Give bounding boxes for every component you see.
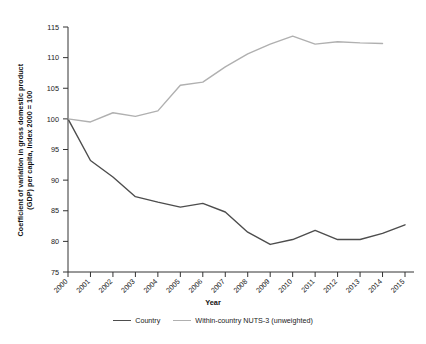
x-tick-label-2012: 2012 — [321, 277, 339, 295]
x-tick-label-2013: 2013 — [344, 277, 362, 295]
plot-area: 7580859095100105110115 20002001200220032… — [0, 0, 426, 300]
x-tick-label-2001: 2001 — [74, 277, 92, 295]
y-axis-title-line-2: (GDP) per capita, Index 2000 = 100 — [25, 91, 34, 210]
x-tick-label-2004: 2004 — [142, 277, 160, 295]
series-line-within-country-nuts-3-unweighted — [68, 36, 383, 122]
legend-label-nuts3: Within-country NUTS-3 (unweighted) — [195, 316, 312, 325]
x-tick-label-2006: 2006 — [187, 277, 205, 295]
x-tick-label-2011: 2011 — [299, 277, 316, 294]
x-tick-label-2000: 2000 — [52, 277, 70, 295]
legend-label-country: Country — [135, 316, 160, 325]
x-tick-label-2010: 2010 — [276, 277, 294, 295]
data-series-group — [68, 36, 405, 244]
legend-item-nuts3[interactable]: Within-country NUTS-3 (unweighted) — [173, 316, 312, 325]
y-tick-label-85: 85 — [51, 206, 59, 215]
x-tick-label-2002: 2002 — [97, 277, 115, 295]
y-axis-title-line-1: Coefficient of variation in gross domest… — [16, 64, 25, 237]
y-tick-label-110: 110 — [47, 53, 59, 62]
x-tick-label-2005: 2005 — [164, 277, 182, 295]
legend-swatch-country-icon — [113, 320, 131, 321]
chart-figure: Coefficient of variation in gross domest… — [0, 0, 426, 344]
x-tick-label-2009: 2009 — [254, 277, 272, 295]
y-tick-label-105: 105 — [47, 84, 59, 93]
x-tick-label-2008: 2008 — [231, 277, 249, 295]
series-line-country — [68, 119, 405, 245]
x-axis-title: Year — [0, 298, 426, 307]
x-tick-label-2015: 2015 — [389, 277, 407, 295]
x-tick-label-2003: 2003 — [119, 277, 137, 295]
y-axis-ticks: 7580859095100105110115 — [47, 23, 68, 277]
y-tick-label-115: 115 — [47, 23, 59, 32]
y-tick-label-75: 75 — [51, 268, 59, 277]
y-tick-label-100: 100 — [47, 115, 59, 124]
x-axis-ticks: 2000200120022003200420052006200720082009… — [52, 272, 407, 295]
chart-legend: Country Within-country NUTS-3 (unweighte… — [0, 316, 426, 325]
x-tick-label-2007: 2007 — [209, 277, 227, 295]
y-axis-title: Coefficient of variation in gross domest… — [8, 0, 42, 300]
x-tick-label-2014: 2014 — [366, 277, 384, 295]
legend-swatch-nuts3-icon — [173, 320, 191, 321]
legend-item-country[interactable]: Country — [113, 316, 160, 325]
y-tick-label-95: 95 — [51, 145, 59, 154]
y-tick-label-80: 80 — [51, 237, 59, 246]
y-tick-label-90: 90 — [51, 176, 59, 185]
